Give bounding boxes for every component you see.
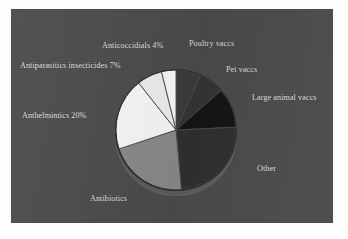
pie-label-large-animal-vaccs: Large animal vaccs bbox=[252, 94, 317, 102]
chart-panel: Anticoccidials 4% Poultry vaccs Antipara… bbox=[12, 10, 332, 222]
pie-label-antibiotics: Antibiotics bbox=[90, 195, 127, 203]
pie-label-antiparasitics: Antiparasitics insecticides 7% bbox=[20, 62, 121, 70]
figure-canvas: Anticoccidials 4% Poultry vaccs Antipara… bbox=[0, 0, 348, 239]
pie-label-poultry-vaccs: Poultry vaccs bbox=[189, 40, 234, 48]
pie-label-anticoccidials: Anticoccidials 4% bbox=[102, 42, 163, 50]
pie-label-pet-vaccs: Pet vaccs bbox=[226, 66, 257, 74]
pie-slice-other[interactable] bbox=[176, 127, 236, 189]
pie-slices bbox=[116, 70, 236, 190]
pie-label-anthelmintics: Anthelmintics 20% bbox=[22, 112, 86, 120]
pie-label-other: Other bbox=[257, 165, 276, 173]
